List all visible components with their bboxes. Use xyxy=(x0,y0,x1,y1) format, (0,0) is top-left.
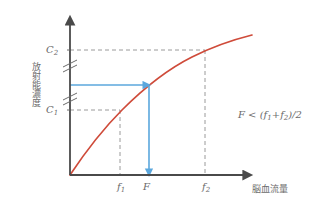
y-tick-label-c2: C2 xyxy=(46,45,58,55)
y-tick-c1-base: C xyxy=(46,104,54,115)
formula-suffix: )/2 xyxy=(288,109,302,120)
formula-mid: +f xyxy=(272,109,284,120)
x-tick-f2-sub: 2 xyxy=(206,186,210,194)
y-tick-label-c1: C1 xyxy=(46,105,58,115)
flow-concentration-curve xyxy=(70,35,252,175)
y-axis-title: 放射能濃度 xyxy=(26,62,40,107)
x-tick-label-f1: f1 xyxy=(117,182,125,192)
x-tick-label-f: F xyxy=(143,182,150,192)
x-tick-label-f2: f2 xyxy=(202,182,210,192)
y-tick-c2-base: C xyxy=(46,44,54,55)
formula-sub-2: 2 xyxy=(284,114,288,122)
figure-canvas: 放射能濃度 脳血流量 C2 C1 f1 F f2 F < (f1+f2)/2 xyxy=(0,0,320,210)
y-tick-c1-sub: 1 xyxy=(54,109,58,117)
formula-prefix: F < (f xyxy=(238,109,267,120)
guide-c2-f2 xyxy=(70,50,205,175)
y-tick-c2-sub: 2 xyxy=(54,49,58,57)
inequality-annotation: F < (f1+f2)/2 xyxy=(238,110,302,120)
x-axis-title: 脳血流量 xyxy=(252,185,288,194)
x-tick-f1-sub: 1 xyxy=(121,186,125,194)
formula-sub-1: 1 xyxy=(267,114,271,122)
x-tick-f-base: F xyxy=(143,181,150,192)
